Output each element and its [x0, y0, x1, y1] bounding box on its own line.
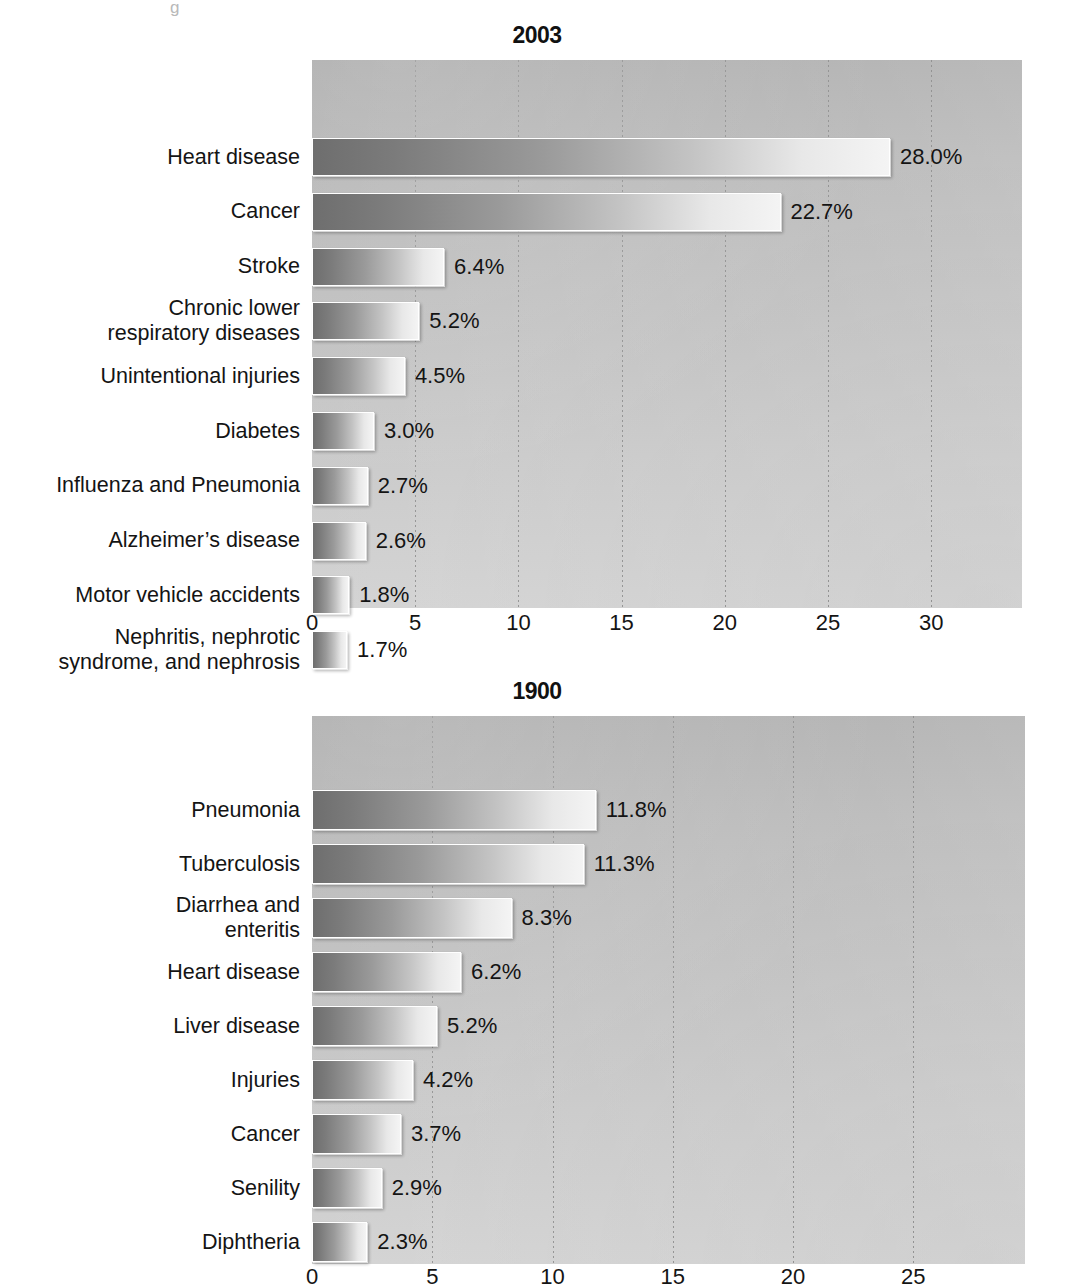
bar [312, 302, 419, 340]
x-tick-label-5: 5 [426, 1264, 438, 1288]
bar [312, 412, 374, 450]
x-tick-label-10: 10 [540, 1264, 564, 1288]
bar-row: 4.2% [0, 1060, 1074, 1100]
x-tick-label-25: 25 [901, 1264, 925, 1288]
bar-value-label: 2.9% [392, 1177, 442, 1199]
x-tick-label-20: 20 [781, 1264, 805, 1288]
bar-value-label: 4.2% [423, 1069, 473, 1091]
bar-value-label: 28.0% [900, 146, 962, 168]
bar [312, 790, 596, 830]
bar-row: 5.2% [0, 302, 1074, 340]
bar-value-label: 3.7% [411, 1123, 461, 1145]
bar-value-label: 6.4% [454, 256, 504, 278]
bar-value-label: 2.7% [378, 475, 428, 497]
chart-1900: 1900 PneumoniaTuberculosisDiarrhea and e… [0, 660, 1074, 1254]
bar [312, 952, 461, 992]
bar-row: 3.0% [0, 412, 1074, 450]
bar-value-label: 3.0% [384, 420, 434, 442]
bar-row: 1.8% [0, 576, 1074, 614]
bar-row: 2.9% [0, 1168, 1074, 1208]
bar-row: 6.4% [0, 248, 1074, 286]
x-tick-label-20: 20 [713, 610, 737, 636]
bar [312, 1222, 367, 1262]
bar [312, 844, 584, 884]
x-tick-label-5: 5 [409, 610, 421, 636]
bar-row: 2.6% [0, 522, 1074, 560]
bar-row: 8.3% [0, 898, 1074, 938]
bar [312, 522, 366, 560]
bar-row: 22.7% [0, 193, 1074, 231]
bar [312, 1006, 437, 1046]
x-tick-label-30: 30 [919, 610, 943, 636]
x-tick-label-0: 0 [306, 1264, 318, 1288]
bar-row: 4.5% [0, 357, 1074, 395]
bar-row: 5.2% [0, 1006, 1074, 1046]
x-tick-label-15: 15 [609, 610, 633, 636]
chart-2003-title: 2003 [0, 22, 1074, 49]
chart-1900-title: 1900 [0, 678, 1074, 705]
bar [312, 193, 781, 231]
bar-value-label: 11.3% [594, 853, 655, 875]
bar-value-label: 22.7% [791, 201, 853, 223]
bar [312, 357, 405, 395]
bar-row: 3.7% [0, 1114, 1074, 1154]
bar [312, 1168, 382, 1208]
bar-row: 6.2% [0, 952, 1074, 992]
bar [312, 1060, 413, 1100]
bar-value-label: 5.2% [447, 1015, 497, 1037]
bar-value-label: 6.2% [471, 961, 521, 983]
x-tick-label-25: 25 [816, 610, 840, 636]
bar [312, 1114, 401, 1154]
bar [312, 467, 368, 505]
bar-value-label: 1.8% [359, 584, 409, 606]
chart-2003: 2003 Heart diseaseCancerStrokeChronic lo… [0, 0, 1074, 660]
bar-value-label: 2.3% [377, 1231, 427, 1253]
x-tick-label-0: 0 [306, 610, 318, 636]
bar [312, 248, 444, 286]
bar-value-label: 11.8% [606, 799, 667, 821]
bar-value-label: 8.3% [522, 907, 572, 929]
x-tick-label-15: 15 [661, 1264, 685, 1288]
bar-row: 2.3% [0, 1222, 1074, 1262]
bar-row: 11.8% [0, 790, 1074, 830]
bar-value-label: 2.6% [376, 530, 426, 552]
x-tick-label-10: 10 [506, 610, 530, 636]
bar-row: 11.3% [0, 844, 1074, 884]
bar-row: 28.0% [0, 138, 1074, 176]
bar-value-label: 4.5% [415, 365, 465, 387]
bar-row: 2.7% [0, 467, 1074, 505]
bar [312, 138, 890, 176]
bar [312, 898, 512, 938]
bar-value-label: 5.2% [429, 310, 479, 332]
bar [312, 576, 349, 614]
bar-value-label: 1.7% [357, 639, 407, 661]
